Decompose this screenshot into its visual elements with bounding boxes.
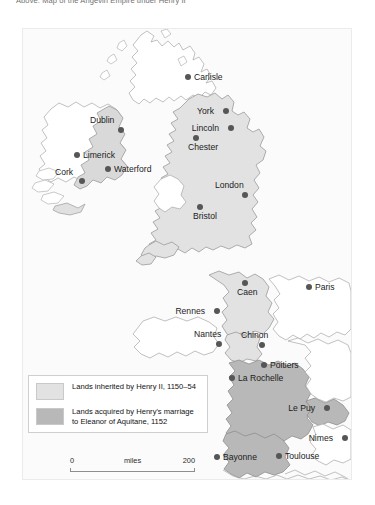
- scale-bar-line: [70, 468, 195, 472]
- city-label: York: [197, 107, 214, 116]
- city-dot: [242, 280, 248, 286]
- legend-swatch-acquired: [36, 408, 64, 425]
- scale-end-label: 200: [183, 456, 195, 465]
- city-label: Waterford: [114, 165, 151, 174]
- city-dot: [276, 453, 282, 459]
- city-label: Limerick: [83, 151, 115, 160]
- map-scale-bar: 0 miles 200: [70, 456, 195, 472]
- city-dot: [214, 454, 220, 460]
- city-label: Chinon: [241, 331, 268, 340]
- city-dot: [259, 342, 265, 348]
- city-label: Le Puy: [288, 404, 315, 413]
- city-dot: [261, 362, 267, 368]
- legend-label-acquired: Lands acquired by Henry's marriage to El…: [72, 407, 200, 426]
- city-label: Bayonne: [223, 453, 257, 462]
- city-dot: [185, 74, 191, 80]
- england-region: [136, 93, 266, 265]
- city-dot: [342, 435, 348, 441]
- scotland-region: [100, 29, 216, 104]
- city-dot: [105, 166, 111, 172]
- city-dot: [214, 308, 220, 314]
- city-label: La Rochelle: [238, 374, 283, 383]
- city-dot: [79, 178, 85, 184]
- city-label: Toulouse: [285, 452, 319, 461]
- city-dot: [229, 375, 235, 381]
- city-dot: [223, 108, 229, 114]
- city-label: Paris: [315, 283, 335, 292]
- city-label: Bristol: [193, 212, 217, 221]
- city-dot: [306, 284, 312, 290]
- city-label: Caen: [237, 288, 258, 297]
- city-label: Carlisle: [194, 73, 223, 82]
- city-dot: [118, 127, 124, 133]
- city-label: Lincoln: [192, 124, 219, 133]
- figure-caption: Above: Map of the Angevin Empire under H…: [16, 0, 356, 8]
- city-dot: [216, 341, 222, 347]
- city-dot: [193, 135, 199, 141]
- city-dot: [324, 405, 330, 411]
- legend-item-inherited: Lands inherited by Henry II, 1150–54: [36, 382, 200, 400]
- city-label: Chester: [188, 143, 218, 152]
- city-label: Nantes: [194, 330, 221, 339]
- map-legend: Lands inherited by Henry II, 1150–54 Lan…: [28, 375, 208, 433]
- legend-swatch-inherited: [36, 383, 64, 400]
- map-page: Above: Map of the Angevin Empire under H…: [0, 0, 375, 505]
- city-dot: [197, 204, 203, 210]
- legend-item-acquired: Lands acquired by Henry's marriage to El…: [36, 407, 200, 426]
- scale-unit-label: miles: [124, 456, 141, 465]
- city-dot: [228, 125, 234, 131]
- city-label: Rennes: [175, 307, 205, 316]
- city-label: London: [215, 181, 244, 190]
- legend-label-inherited: Lands inherited by Henry II, 1150–54: [72, 382, 196, 392]
- scale-start-label: 0: [70, 456, 74, 465]
- city-label: Poitiers: [270, 361, 299, 370]
- city-dot: [74, 152, 80, 158]
- normandy-anjou-region: [209, 271, 274, 363]
- city-label: Nimes: [309, 434, 333, 443]
- city-label: Dublin: [90, 116, 114, 125]
- city-label: Cork: [55, 168, 73, 177]
- city-dot: [242, 192, 248, 198]
